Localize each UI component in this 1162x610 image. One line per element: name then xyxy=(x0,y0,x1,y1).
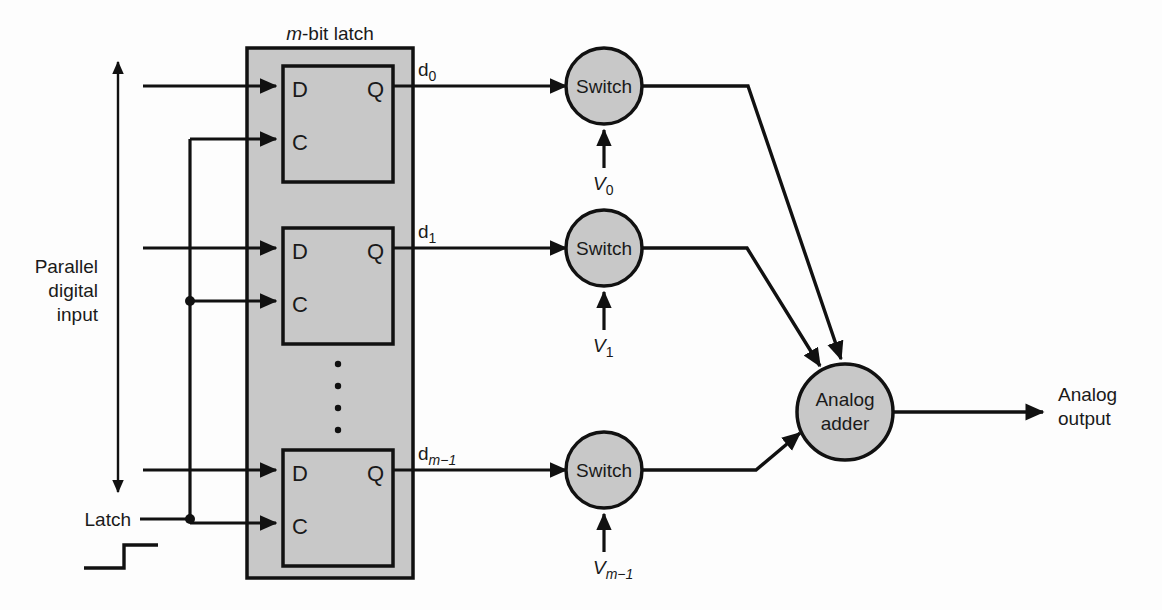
latch-input-label: Latch xyxy=(85,509,131,530)
signal-label-d1: d1 xyxy=(418,221,437,246)
latch-cell-0: D C Q xyxy=(283,66,393,182)
junction-dot xyxy=(185,296,195,306)
latch-cell-2-q-port: Q xyxy=(367,461,384,486)
switch-0: Switch xyxy=(566,48,642,124)
ellipsis-dot xyxy=(335,427,341,433)
junction-dot xyxy=(185,514,195,524)
ellipsis-dot xyxy=(335,405,341,411)
analog-output-label-line1: Analog xyxy=(1058,384,1117,405)
analog-adder-circle xyxy=(797,364,893,460)
signal-label-d0: d0 xyxy=(418,59,437,84)
switch-to-adder-wire-1 xyxy=(642,248,820,366)
latch-block-title: m-bit latch xyxy=(286,23,374,44)
analog-adder: Analog adder xyxy=(797,364,893,460)
signal-label-dm1: dm−1 xyxy=(418,443,456,468)
vref-label-0: V0 xyxy=(593,173,614,198)
ellipsis-dot xyxy=(335,361,341,367)
latch-cell-0-c-port: C xyxy=(292,130,308,155)
latch-cell-0-d-port: D xyxy=(292,77,308,102)
q-to-switch-wires xyxy=(393,86,566,470)
latch-cell-1-c-port: C xyxy=(292,292,308,317)
analog-adder-label-line1: Analog xyxy=(815,389,874,410)
parallel-input-label-line3: input xyxy=(57,304,99,325)
switch-2: Switch xyxy=(566,432,642,508)
latch-title-m: m xyxy=(286,23,302,44)
latch-cell-1: D C Q xyxy=(283,228,393,344)
figure-canvas: m-bit latch D C Q D C Q D C xyxy=(0,0,1162,610)
analog-output-group: Analog output xyxy=(893,384,1117,429)
analog-adder-label-line2: adder xyxy=(821,413,870,434)
switch-1-label: Switch xyxy=(576,238,632,259)
latch-cell-0-q-port: Q xyxy=(367,77,384,102)
latch-title-rest: -bit latch xyxy=(302,23,374,44)
data-signal-labels: d0 d1 dm−1 xyxy=(418,59,456,468)
switch-1: Switch xyxy=(566,210,642,286)
analog-output-label-line2: output xyxy=(1058,408,1112,429)
latch-cell-1-q-port: Q xyxy=(367,239,384,264)
latch-cell-1-d-port: D xyxy=(292,239,308,264)
parallel-digital-input-group: Parallel digital input xyxy=(35,62,118,492)
latch-cell-2: D C Q xyxy=(283,450,393,566)
switch-2-label: Switch xyxy=(576,460,632,481)
vref-label-m1: Vm−1 xyxy=(593,557,633,582)
dac-block-diagram: m-bit latch D C Q D C Q D C xyxy=(0,0,1162,610)
parallel-input-label-line1: Parallel xyxy=(35,256,98,277)
rising-edge-icon xyxy=(84,545,158,568)
latch-cell-2-d-port: D xyxy=(292,461,308,486)
latch-cell-2-c-port: C xyxy=(292,514,308,539)
switch-to-adder-wire-0 xyxy=(642,86,841,359)
ellipsis-dot xyxy=(335,383,341,389)
vref-label-1: V1 xyxy=(593,335,614,360)
switch-0-label: Switch xyxy=(576,76,632,97)
switch-to-adder-wire-2 xyxy=(642,433,800,470)
parallel-input-label-line2: digital xyxy=(48,280,98,301)
